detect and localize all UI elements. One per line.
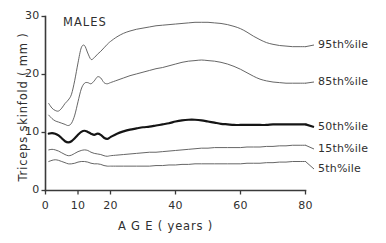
series-label-50thile: 50th%ile [318, 120, 368, 133]
x-tick-label: 10 [64, 199, 92, 212]
series-line-95thile [49, 22, 306, 111]
chart-series-curves [49, 22, 306, 166]
series-label-95thile: 95th%ile [318, 38, 368, 51]
y-tick-label: 30 [20, 9, 40, 22]
y-tick-label: 20 [20, 67, 40, 80]
x-tick-label: 40 [162, 199, 190, 212]
y-tick-label: 10 [20, 125, 40, 138]
series-label-5thile: 5th%ile [318, 162, 361, 175]
series-line-15thile [49, 145, 306, 156]
chart-title: MALES [63, 15, 107, 29]
series-leader-line [306, 82, 315, 83]
series-line-85thile [49, 60, 306, 126]
series-leader-line [306, 45, 315, 47]
x-axis-title: A G E ( years ) [118, 219, 213, 233]
y-axis-title: Triceps skinfold ( mm ) [16, 32, 30, 182]
x-tick-label: 0 [32, 199, 60, 212]
series-leader-line [306, 145, 315, 149]
chart-figure: MALES A G E ( years ) Triceps skinfold (… [0, 0, 386, 243]
series-leader-line [306, 162, 315, 170]
series-leader-line [306, 124, 315, 127]
chart-series-leaders [306, 45, 315, 169]
x-tick-label: 20 [97, 199, 125, 212]
series-label-85thile: 85th%ile [318, 75, 368, 88]
y-tick-label: 0 [20, 183, 40, 196]
series-line-50thile [49, 120, 306, 143]
series-label-15thile: 15th%ile [318, 142, 368, 155]
x-tick-label: 60 [227, 199, 255, 212]
x-tick-label: 80 [292, 199, 320, 212]
series-line-5thile [49, 160, 306, 166]
